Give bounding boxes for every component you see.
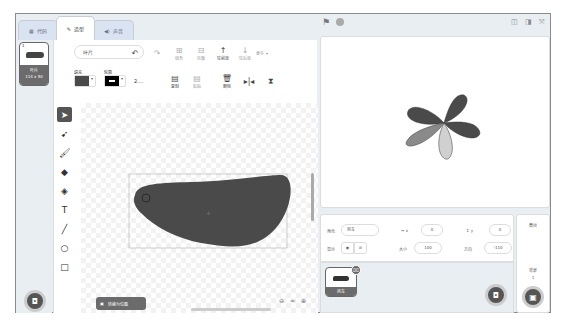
- trash-icon: 🗑: [222, 74, 232, 83]
- hide-button[interactable]: ⊘: [354, 242, 367, 254]
- undo-button[interactable]: ↶: [124, 49, 146, 58]
- rectangle-tool[interactable]: □: [57, 259, 72, 274]
- direction-input[interactable]: -110: [484, 242, 512, 254]
- cat-icon: ◘: [32, 297, 38, 306]
- leaf-shape[interactable]: +: [81, 103, 318, 313]
- costume-item[interactable]: 1 叶片114 x 50: [19, 42, 49, 86]
- stage-canvas[interactable]: [320, 36, 550, 208]
- group-button[interactable]: ⊞组合: [168, 46, 190, 61]
- flip-vertical-button[interactable]: ⧗: [260, 77, 282, 86]
- eye-icon: ◉: [346, 245, 350, 250]
- tab-code[interactable]: ▦代码: [18, 20, 58, 40]
- show-visible-button[interactable]: ◉: [341, 242, 354, 254]
- text-icon: T: [62, 205, 68, 215]
- zoom-controls: ⊖ = ⊕: [279, 297, 306, 304]
- y-label: ↕ y: [466, 228, 473, 233]
- cat-icon: ◘: [493, 291, 499, 300]
- sprite-info-panel: 角色 风车 ↔ x 0 ↕ y 0 显示 ◉ ⊘ 大小 100 方向 -110: [320, 214, 514, 262]
- add-backdrop-button[interactable]: ▣: [522, 286, 544, 308]
- x-input[interactable]: 0: [421, 224, 443, 236]
- add-sprite-button[interactable]: ◘: [485, 284, 507, 306]
- size-input[interactable]: 100: [414, 242, 442, 254]
- fill-tool[interactable]: ◈: [57, 183, 72, 198]
- group-icon: ⊞: [176, 46, 183, 55]
- eye-slash-icon: ⊘: [359, 245, 362, 250]
- bucket-icon: ◈: [61, 186, 68, 196]
- x-label: ↔ x: [401, 228, 408, 233]
- delete-button[interactable]: 🗑删除: [216, 74, 238, 89]
- forward-button[interactable]: ↑往前放: [212, 46, 234, 61]
- eraser-tool[interactable]: ◆: [57, 164, 72, 179]
- more-button[interactable]: 更多▾: [256, 50, 286, 56]
- ungroup-button[interactable]: ⊟拆散: [190, 46, 212, 61]
- outline-color-picker[interactable]: ▾: [104, 75, 126, 87]
- sprite-thumbnail: [333, 276, 349, 281]
- tab-costumes[interactable]: ✎造型: [56, 16, 95, 40]
- tool-palette: ➤ ➹ 🖌 ◆ ◈ T ╱ ○ □: [57, 107, 75, 278]
- backward-button[interactable]: ↓往后放: [234, 46, 256, 61]
- rectangle-icon: □: [60, 262, 69, 272]
- fill-color-picker[interactable]: ▾: [74, 75, 96, 87]
- svg-text:+: +: [206, 209, 211, 216]
- stage-selector[interactable]: 舞台 背景 1 ▣: [516, 214, 550, 313]
- backdrop-icon: ▣: [529, 293, 537, 302]
- eraser-icon: ◆: [61, 167, 68, 177]
- large-stage-icon[interactable]: ◨: [525, 18, 532, 26]
- copy-button[interactable]: ▤复制: [164, 74, 186, 89]
- sprite-name-input[interactable]: 风车: [341, 224, 379, 236]
- flip-horizontal-icon: ▸|◂: [244, 77, 255, 86]
- tab-bar: ▦代码 ✎造型 ◀)声音: [16, 14, 316, 40]
- convert-bitmap-button[interactable]: ▣转换为位图: [96, 297, 146, 310]
- reshape-icon: ➹: [61, 129, 69, 139]
- windmill-sprite[interactable]: [321, 37, 551, 209]
- add-costume-button[interactable]: ◘: [24, 290, 46, 312]
- costume-thumbnail: [26, 52, 44, 58]
- ungroup-icon: ⊟: [198, 46, 205, 55]
- speaker-icon: ◀): [104, 28, 110, 34]
- flip-vertical-icon: ⧗: [268, 77, 274, 86]
- zoom-in-icon[interactable]: ⊕: [301, 297, 306, 304]
- y-input[interactable]: 0: [489, 224, 511, 236]
- brush-tool[interactable]: 🖌: [57, 145, 72, 160]
- brush-icon: ✎: [67, 26, 71, 32]
- tab-sounds[interactable]: ◀)声音: [93, 20, 134, 40]
- arrow-down-icon: ↓: [242, 46, 249, 55]
- code-icon: ▦: [29, 28, 34, 34]
- line-icon: ╱: [62, 224, 67, 234]
- redo-icon: ↷: [154, 49, 161, 58]
- stage-header: ⚑ ◫ ◨ ⤧: [318, 14, 552, 36]
- paste-button[interactable]: ▤粘贴: [186, 74, 208, 89]
- app-window: ▦代码 ✎造型 ◀)声音 1 叶片114 x 50 ◘ 叶片 ↶ ↷ ⊞组合 ⊟…: [15, 13, 551, 313]
- arrow-icon: ➤: [61, 110, 69, 120]
- chevron-down-icon: ▾: [266, 51, 268, 56]
- zoom-out-icon[interactable]: ⊖: [279, 297, 284, 304]
- costume-list: 1 叶片114 x 50 ◘: [16, 40, 52, 313]
- redo-button[interactable]: ↷: [146, 49, 168, 58]
- reshape-tool[interactable]: ➹: [57, 126, 72, 141]
- paint-editor: 叶片 ↶ ↷ ⊞组合 ⊟拆散 ↑往前放 ↓往后放 更多▾ 填充 ▾ 轮廓 ▾ 2…: [53, 40, 317, 313]
- paste-icon: ▤: [193, 74, 201, 83]
- drawing-canvas[interactable]: +: [81, 103, 318, 313]
- brush-icon: 🖌: [59, 148, 70, 158]
- sprite-list: 风车 ⌧ ◘: [320, 262, 514, 313]
- stop-icon[interactable]: [336, 18, 344, 26]
- select-tool[interactable]: ➤: [57, 107, 72, 122]
- small-stage-icon[interactable]: ◫: [511, 18, 518, 26]
- circle-icon: ○: [61, 243, 69, 253]
- flip-horizontal-button[interactable]: ▸|◂: [238, 77, 260, 86]
- line-tool[interactable]: ╱: [57, 221, 72, 236]
- zoom-reset-button[interactable]: =: [290, 297, 295, 304]
- green-flag-icon[interactable]: ⚑: [322, 17, 330, 27]
- delete-sprite-button[interactable]: ⌧: [351, 265, 361, 275]
- fullscreen-icon[interactable]: ⤧: [539, 18, 545, 26]
- copy-icon: ▤: [171, 74, 179, 83]
- arrow-up-icon: ↑: [220, 46, 227, 55]
- circle-tool[interactable]: ○: [57, 240, 72, 255]
- trash-icon: ⌧: [353, 267, 359, 273]
- outline-width-input[interactable]: 2....: [134, 78, 144, 84]
- image-icon: ▣: [100, 301, 104, 306]
- undo-icon: ↶: [132, 49, 139, 58]
- text-tool[interactable]: T: [57, 202, 72, 217]
